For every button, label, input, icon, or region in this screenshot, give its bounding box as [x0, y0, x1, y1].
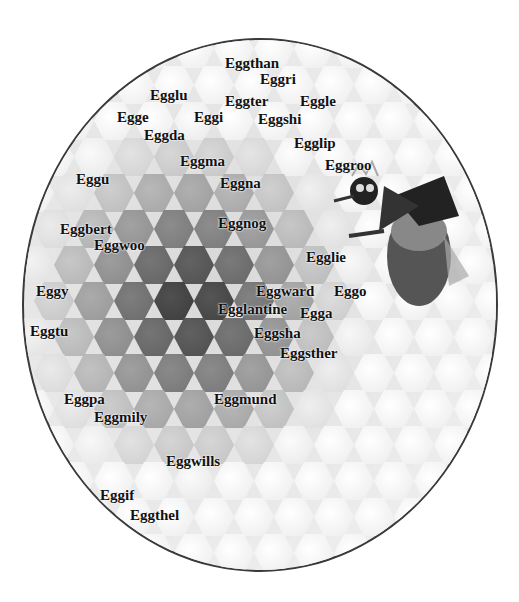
- honeycomb-cell: [374, 102, 414, 140]
- honeycomb-cell: [354, 498, 394, 536]
- honeycomb-cell: [394, 570, 434, 572]
- honeycomb-cell: [134, 38, 174, 68]
- honeycomb-cell: [154, 210, 194, 248]
- honeycomb-cell: [394, 66, 434, 104]
- honeycomb-cell: [274, 426, 314, 464]
- honeycomb-cell: [354, 570, 394, 572]
- honeycomb-cell: [394, 498, 434, 536]
- honeycomb-cell: [174, 246, 214, 284]
- honeycomb-cell: [494, 174, 498, 212]
- honeycomb-cell: [474, 570, 498, 572]
- honeycomb-cell: [74, 570, 114, 572]
- honeycomb-cell: [114, 138, 154, 176]
- honeycomb-cell: [134, 534, 174, 572]
- honeycomb-cell: [414, 38, 454, 68]
- egg-name-label: Eggle: [300, 94, 336, 109]
- egg-name-label: Eggna: [220, 176, 261, 191]
- honeycomb-cell: [474, 354, 498, 392]
- honeycomb-cell: [34, 66, 74, 104]
- honeycomb-cell: [94, 38, 134, 68]
- honeycomb-cell: [154, 282, 194, 320]
- honeycomb-cell: [194, 354, 234, 392]
- honeycomb-cell: [54, 462, 94, 500]
- honeycomb-cell: [22, 174, 54, 212]
- honeycomb-cell: [54, 246, 94, 284]
- honeycomb-cell: [274, 210, 314, 248]
- egg-name-label: Eggma: [180, 154, 225, 169]
- honeycomb-cell: [334, 38, 374, 68]
- honeycomb-cell: [214, 318, 254, 356]
- honeycomb-cell: [494, 318, 498, 356]
- honeycomb-cell: [374, 390, 414, 428]
- honeycomb-cell: [34, 354, 74, 392]
- honeycomb-cell: [274, 570, 314, 572]
- honeycomb-cell: [194, 570, 234, 572]
- egg-name-label: Eggda: [144, 128, 185, 143]
- egg-name-label: Eggri: [260, 72, 296, 87]
- honeycomb-cell: [234, 570, 274, 572]
- honeycomb-cell: [254, 246, 294, 284]
- honeycomb-cell: [494, 462, 498, 500]
- honeycomb-cell: [154, 570, 194, 572]
- honeycomb-cell: [274, 498, 314, 536]
- honeycomb-cell: [22, 38, 54, 68]
- honeycomb-cell: [234, 138, 274, 176]
- egg-name-label: Egge: [117, 110, 149, 125]
- honeycomb-cell: [434, 426, 474, 464]
- egg-name-label: Eggwoo: [94, 238, 145, 253]
- honeycomb-cell: [114, 66, 154, 104]
- honeycomb-cell: [414, 462, 454, 500]
- honeycomb-cell: [294, 38, 334, 68]
- egg-name-label: Egglip: [294, 136, 336, 151]
- honeycomb-cell: [54, 534, 94, 572]
- honeycomb-cell: [174, 534, 214, 572]
- honeycomb-cell: [134, 318, 174, 356]
- honeycomb-cell: [74, 282, 114, 320]
- honeycomb-cell: [234, 498, 274, 536]
- honeycomb-cell: [54, 38, 94, 68]
- honeycomb-cell: [414, 102, 454, 140]
- honeycomb-cell: [314, 426, 354, 464]
- honeycomb-cell: [214, 246, 254, 284]
- honeycomb-cell: [354, 354, 394, 392]
- honeycomb-cell: [34, 138, 74, 176]
- honeycomb-cell: [22, 102, 54, 140]
- honeycomb-cell: [74, 498, 114, 536]
- honeycomb-cell: [454, 318, 494, 356]
- egg-name-label: Eggwills: [166, 454, 220, 469]
- egg-name-label: Eggi: [194, 110, 223, 125]
- honeycomb-cell: [434, 354, 474, 392]
- honeycomb-cell: [74, 426, 114, 464]
- honeycomb-cell: [494, 390, 498, 428]
- honeycomb-cell: [294, 462, 334, 500]
- honeycomb-cell: [314, 570, 354, 572]
- honeycomb-cell: [474, 426, 498, 464]
- honeycomb-cell: [34, 426, 74, 464]
- honeycomb-cell: [334, 534, 374, 572]
- honeycomb-cell: [354, 66, 394, 104]
- honeycomb-cell: [194, 498, 234, 536]
- egg-name-label: Egga: [300, 306, 333, 321]
- honeycomb-cell: [454, 462, 494, 500]
- honeycomb-cell: [474, 138, 498, 176]
- honeycomb-cell: [154, 354, 194, 392]
- egg-name-label: Eggter: [225, 94, 268, 109]
- honeycomb-cell: [34, 498, 74, 536]
- egg-name-label: Egglie: [306, 250, 346, 265]
- honeycomb-cell: [374, 534, 414, 572]
- honeycomb-cell: [74, 66, 114, 104]
- honeycomb-cell: [354, 426, 394, 464]
- honeycomb-cell: [494, 534, 498, 572]
- egg-name-label: Eggshi: [258, 112, 301, 127]
- honeycomb-cell: [174, 318, 214, 356]
- honeycomb-cell: [374, 318, 414, 356]
- honeycomb-cell: [22, 246, 54, 284]
- honeycomb-cell: [474, 66, 498, 104]
- egg-name-label: Eggtu: [30, 324, 68, 339]
- honeycomb-cell: [454, 102, 494, 140]
- honeycomb-cell: [314, 498, 354, 536]
- honeycomb-cell: [74, 354, 114, 392]
- honeycomb-cell: [474, 498, 498, 536]
- honeycomb-cell: [22, 534, 54, 572]
- honeycomb-cell: [334, 390, 374, 428]
